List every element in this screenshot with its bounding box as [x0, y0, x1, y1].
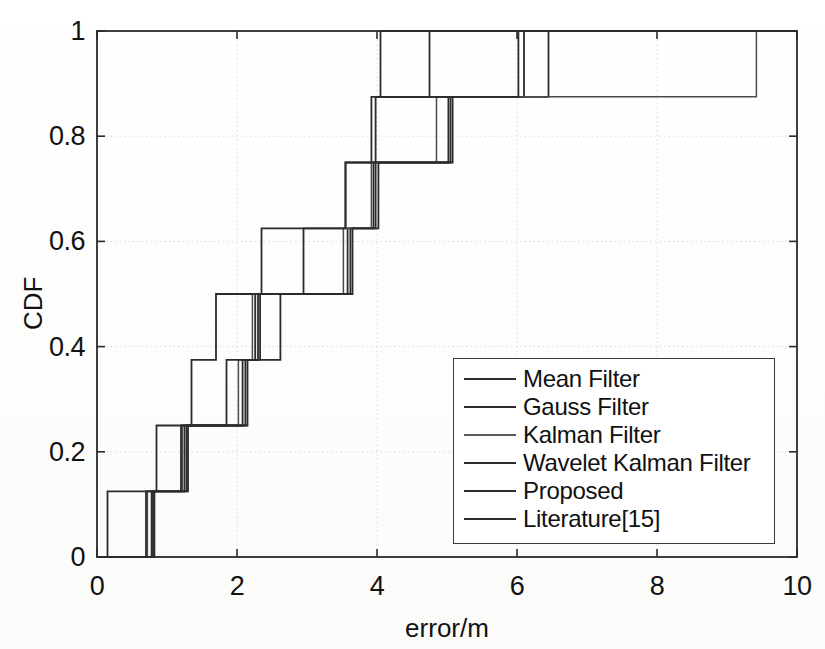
legend-line-swatch: [464, 434, 516, 436]
legend-item-label: Gauss Filter: [523, 395, 649, 419]
y-tick-label-0-4: 0.4: [49, 333, 85, 360]
legend-line-swatch: [464, 462, 516, 464]
legend-item-gauss-filter[interactable]: Gauss Filter: [464, 393, 764, 421]
chart-legend[interactable]: Mean FilterGauss FilterKalman FilterWave…: [453, 358, 775, 544]
y-tick-label-0: 0: [70, 544, 85, 571]
y-axis-title: CDF: [18, 277, 49, 330]
legend-item-label: Kalman Filter: [523, 423, 660, 447]
legend-item-label: Literature[15]: [523, 507, 660, 531]
x-tick-label-0: 0: [90, 573, 105, 600]
y-tick-label-1: 1: [70, 18, 85, 45]
legend-item-mean-filter[interactable]: Mean Filter: [464, 365, 764, 393]
legend-line-swatch: [464, 490, 516, 492]
legend-item-label: Mean Filter: [523, 367, 640, 391]
x-tick-label-4: 4: [370, 573, 385, 600]
plot-canvas: [0, 0, 825, 649]
y-tick-label-0-2: 0.2: [49, 438, 85, 465]
legend-item-proposed[interactable]: Proposed: [464, 477, 764, 505]
y-tick-label-0-8: 0.8: [49, 123, 85, 150]
cdf-figure: 0246810 00.20.40.60.81 error/m CDF Mean …: [0, 0, 825, 649]
x-tick-label-6: 6: [510, 573, 525, 600]
legend-line-swatch: [464, 518, 516, 520]
legend-item-literature-15[interactable]: Literature[15]: [464, 505, 764, 533]
x-tick-label-2: 2: [230, 573, 245, 600]
x-tick-label-10: 10: [782, 573, 811, 600]
legend-line-swatch: [464, 406, 516, 408]
legend-item-wavelet-kalman-filter[interactable]: Wavelet Kalman Filter: [464, 449, 764, 477]
x-tick-label-8: 8: [650, 573, 665, 600]
legend-item-label: Proposed: [523, 479, 623, 503]
legend-line-swatch: [464, 378, 516, 380]
legend-item-label: Wavelet Kalman Filter: [523, 451, 751, 475]
x-axis-title: error/m: [405, 613, 489, 644]
legend-item-kalman-filter[interactable]: Kalman Filter: [464, 421, 764, 449]
y-tick-label-0-6: 0.6: [49, 228, 85, 255]
